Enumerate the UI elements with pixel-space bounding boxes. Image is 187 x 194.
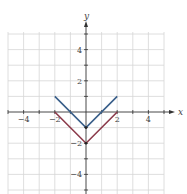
- x-tick-label: 4: [146, 115, 151, 124]
- x-tick-label: 2: [115, 115, 120, 124]
- y-tick-label: 2: [77, 77, 82, 86]
- x-axis-arrow-icon: [169, 110, 175, 114]
- y-axis-arrow-icon: [84, 21, 88, 27]
- y-tick-label: −4: [70, 170, 82, 179]
- y-axis-label: y: [83, 11, 90, 21]
- x-tick-label: −4: [18, 115, 30, 124]
- vertex-point: [85, 142, 88, 145]
- vertex-point: [85, 126, 88, 129]
- coordinate-plane: −4−22442−2−4 x y: [0, 0, 187, 194]
- x-axis-label: x: [178, 107, 183, 117]
- axes: [8, 21, 175, 194]
- y-tick-label: −2: [70, 139, 82, 148]
- y-tick-label: 4: [77, 46, 82, 55]
